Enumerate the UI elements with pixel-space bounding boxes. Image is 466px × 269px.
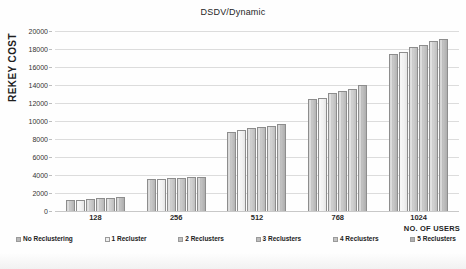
legend-label: 3 Reclusters: [263, 236, 302, 243]
legend-label: 4 Reclusters: [340, 236, 379, 243]
plot-area: [55, 31, 459, 211]
bar[interactable]: [76, 200, 85, 211]
legend-swatch-icon: [256, 237, 261, 242]
y-axis-tick-mark: [49, 175, 52, 176]
y-axis-tick-label: 8000: [32, 136, 48, 143]
bar[interactable]: [419, 45, 428, 211]
bar-group: [217, 31, 298, 211]
bar[interactable]: [147, 179, 156, 211]
chart-container: DSDV/Dynamic REKEY COST 0200040006000800…: [0, 0, 466, 269]
bar[interactable]: [237, 130, 246, 211]
bar[interactable]: [96, 198, 105, 211]
bar-groups: [55, 31, 459, 211]
y-axis-tick-mark: [49, 31, 52, 32]
bar[interactable]: [338, 91, 347, 211]
bar[interactable]: [66, 200, 75, 211]
y-axis-tick-mark: [49, 139, 52, 140]
legend-label: 1 Recluster: [112, 236, 147, 243]
bar[interactable]: [277, 124, 286, 211]
y-axis-tick-mark: [49, 103, 52, 104]
legend-swatch-icon: [333, 237, 338, 242]
bar[interactable]: [409, 47, 418, 211]
y-axis-tick-label: 10000: [29, 118, 48, 125]
bar-group: [297, 31, 378, 211]
bar[interactable]: [267, 126, 276, 212]
x-axis-tick-label: 256: [136, 213, 217, 227]
bar[interactable]: [116, 197, 125, 211]
chart-legend: No Reclustering1 Recluster2 Reclusters3 …: [16, 236, 456, 243]
y-axis-tick-mark: [49, 193, 52, 194]
x-axis-tick-label: 768: [297, 213, 378, 227]
bar[interactable]: [358, 85, 367, 211]
y-axis-tick-label: 12000: [29, 100, 48, 107]
x-axis-tick-label: 512: [217, 213, 298, 227]
bar[interactable]: [399, 52, 408, 211]
legend-item[interactable]: 5 Reclusters: [410, 236, 456, 243]
y-axis-tick-mark: [49, 85, 52, 86]
bar[interactable]: [106, 198, 115, 211]
legend-swatch-icon: [105, 237, 110, 242]
y-axis-tick-labels: 0200040006000800010000120001400016000180…: [0, 31, 52, 211]
y-axis-tick-mark: [49, 121, 52, 122]
y-axis-tick-label: 14000: [29, 82, 48, 89]
x-axis-title: NO. OF USERS: [404, 224, 460, 233]
x-axis-tick-label: 128: [55, 213, 136, 227]
x-axis-tick-labels: 1282565127681024: [55, 213, 459, 227]
y-axis-tick-mark: [49, 49, 52, 50]
bar[interactable]: [389, 54, 398, 211]
legend-swatch-icon: [410, 237, 415, 242]
bar[interactable]: [177, 178, 186, 211]
legend-item[interactable]: 3 Reclusters: [256, 236, 302, 243]
scan-artifact: [0, 253, 466, 269]
y-axis-tick-label: 6000: [32, 154, 48, 161]
y-axis-tick-label: 4000: [32, 172, 48, 179]
legend-item[interactable]: No Reclustering: [16, 236, 73, 243]
bar[interactable]: [348, 89, 357, 211]
bar[interactable]: [86, 199, 95, 211]
y-axis-tick-label: 2000: [32, 190, 48, 197]
bar[interactable]: [429, 41, 438, 211]
bar-group: [55, 31, 136, 211]
y-axis-tick-mark: [49, 211, 52, 212]
y-axis-tick-label: 0: [44, 208, 48, 215]
bar-group: [378, 31, 459, 211]
y-axis-tick-label: 18000: [29, 46, 48, 53]
legend-label: No Reclustering: [23, 236, 73, 243]
legend-item[interactable]: 4 Reclusters: [333, 236, 379, 243]
y-axis-tick-label: 16000: [29, 64, 48, 71]
gridline: [55, 211, 459, 212]
legend-item[interactable]: 2 Reclusters: [178, 236, 224, 243]
chart-title: DSDV/Dynamic: [0, 7, 466, 17]
legend-swatch-icon: [178, 237, 183, 242]
y-axis-tick-mark: [49, 157, 52, 158]
bar[interactable]: [257, 127, 266, 211]
bar[interactable]: [328, 93, 337, 211]
legend-label: 5 Reclusters: [417, 236, 456, 243]
bar[interactable]: [157, 179, 166, 211]
bar[interactable]: [439, 39, 448, 211]
bar-group: [136, 31, 217, 211]
legend-label: 2 Reclusters: [185, 236, 224, 243]
bar[interactable]: [318, 98, 327, 211]
bar[interactable]: [197, 177, 206, 211]
bar[interactable]: [227, 132, 236, 211]
y-axis-tick-label: 20000: [29, 28, 48, 35]
bar[interactable]: [187, 177, 196, 211]
bar[interactable]: [247, 128, 256, 211]
y-axis-tick-mark: [49, 67, 52, 68]
legend-item[interactable]: 1 Recluster: [105, 236, 147, 243]
legend-swatch-icon: [16, 237, 21, 242]
bar[interactable]: [167, 178, 176, 211]
bar[interactable]: [308, 99, 317, 211]
